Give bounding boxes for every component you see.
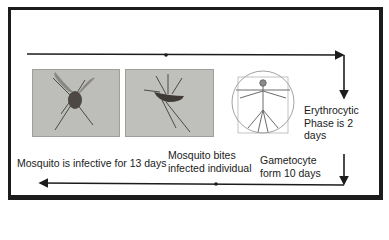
mosquito-icon (33, 70, 119, 136)
vitruvian-man-icon (230, 68, 296, 138)
mosquito-photo-1 (32, 69, 120, 137)
bottom-arrow (40, 183, 344, 185)
mosquito-biting-icon (126, 70, 213, 136)
mosquito-infective-label: Mosquito is infective for 13 days (17, 157, 166, 170)
erythrocytic-label: Erythrocytic Phase is 2 days (304, 104, 359, 142)
top-arrow (27, 54, 343, 55)
mosquito-photo-2 (125, 69, 214, 137)
gametocyte-label: Gametocyte form 10 days (260, 154, 321, 179)
mosquito-bites-label: Mosquito bites infected individual (168, 149, 251, 174)
